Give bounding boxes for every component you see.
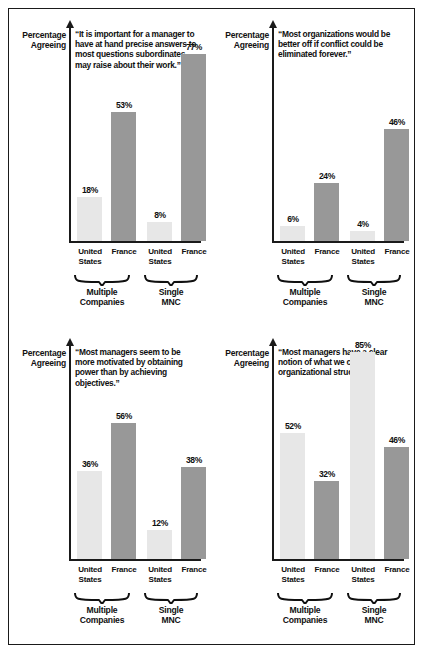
x-axis-tick-label: UnitedStates — [346, 565, 380, 585]
bar-united-states: 12% — [147, 530, 172, 559]
plot-area: “Most managers have a clear notion of wh… — [272, 345, 404, 561]
group-brace-labels: MultipleCompaniesSingleMNC — [71, 275, 201, 321]
group-single-mnc: SingleMNC — [143, 275, 199, 307]
group-label-line2: MNC — [346, 615, 402, 625]
bar-france: 53% — [111, 112, 136, 241]
tick-label-line2: States — [143, 575, 177, 585]
group-label: MultipleCompanies — [276, 287, 334, 307]
group-multiple-companies: MultipleCompanies — [276, 593, 334, 625]
tick-label-line2: States — [346, 257, 380, 267]
bar-value-label: 46% — [380, 435, 414, 445]
group-label-line2: Companies — [73, 297, 131, 307]
x-axis-category-labels: UnitedStatesFranceUnitedStatesFrance — [274, 565, 404, 591]
tick-label-line2: States — [346, 575, 380, 585]
group-label-line2: MNC — [143, 297, 199, 307]
bar-value-label: 32% — [310, 469, 344, 479]
tick-label-line1: United — [346, 247, 380, 257]
bar-series: 6%24%4%46% — [274, 27, 404, 241]
bar-value-label: 52% — [276, 421, 310, 431]
group-label: SingleMNC — [346, 605, 402, 625]
bar-france: 56% — [111, 423, 136, 559]
x-axis-line — [69, 559, 201, 561]
group-multiple-companies: MultipleCompanies — [73, 275, 131, 307]
y-axis-label-line2: Agreeing — [11, 41, 66, 51]
group-label-line1: Single — [346, 287, 402, 297]
chart-panel-bottom-right: PercentageAgreeing“Most managers have a … — [212, 329, 416, 645]
bar-value-label: 36% — [73, 459, 107, 469]
plot-area: “It is important for a manager to have a… — [69, 27, 201, 243]
tick-label-line1: France — [177, 247, 211, 257]
curly-brace-icon — [346, 275, 402, 286]
bar-value-label: 8% — [143, 210, 177, 220]
tick-label-line1: United — [276, 247, 310, 257]
x-axis-tick-label: UnitedStates — [73, 565, 107, 585]
bar-united-states: 85% — [350, 352, 375, 559]
plot-area: “Most organizations would be better off … — [272, 27, 404, 243]
curly-brace-icon — [143, 275, 199, 286]
x-axis-tick-label: UnitedStates — [73, 247, 107, 267]
bar-rect — [280, 226, 305, 241]
group-label-line1: Single — [143, 605, 199, 615]
bar-rect — [181, 467, 206, 559]
bar-rect — [384, 129, 409, 241]
bar-united-states: 36% — [77, 471, 102, 559]
y-axis-label: PercentageAgreeing — [214, 349, 269, 368]
bar-united-states: 6% — [280, 226, 305, 241]
bar-rect — [147, 222, 172, 241]
bar-value-label: 85% — [346, 340, 380, 350]
tick-label-line1: United — [276, 565, 310, 575]
bar-value-label: 77% — [177, 42, 211, 52]
tick-label-line1: United — [73, 247, 107, 257]
x-axis-tick-label: France — [177, 247, 211, 257]
group-label-line2: Companies — [276, 297, 334, 307]
x-axis-tick-label: UnitedStates — [143, 247, 177, 267]
bar-united-states: 18% — [77, 197, 102, 241]
x-axis-tick-label: France — [380, 247, 414, 257]
bar-rect — [384, 447, 409, 559]
group-label: MultipleCompanies — [276, 605, 334, 625]
y-axis-label: PercentageAgreeing — [11, 349, 66, 368]
bar-rect — [111, 112, 136, 241]
bar-value-label: 38% — [177, 455, 211, 465]
figure-frame: PercentageAgreeing“It is important for a… — [8, 8, 415, 645]
tick-label-line2: States — [143, 257, 177, 267]
x-axis-tick-label: UnitedStates — [143, 565, 177, 585]
tick-label-line2: States — [276, 257, 310, 267]
bar-rect — [314, 183, 339, 241]
bar-series: 36%56%12%38% — [71, 345, 201, 559]
group-label-line1: Multiple — [73, 287, 131, 297]
y-axis-label: PercentageAgreeing — [214, 31, 269, 50]
x-axis-category-labels: UnitedStatesFranceUnitedStatesFrance — [71, 565, 201, 591]
group-single-mnc: SingleMNC — [143, 593, 199, 625]
group-brace-labels: MultipleCompaniesSingleMNC — [71, 593, 201, 639]
curly-brace-icon — [276, 275, 334, 286]
group-label: SingleMNC — [346, 287, 402, 307]
tick-label-line2: States — [73, 257, 107, 267]
x-axis-tick-label: UnitedStates — [276, 565, 310, 585]
plot-area: “Most managers seem to be more motivated… — [69, 345, 201, 561]
group-label-line2: MNC — [143, 615, 199, 625]
tick-label-line1: France — [177, 565, 211, 575]
bar-value-label: 46% — [380, 117, 414, 127]
tick-label-line1: United — [73, 565, 107, 575]
group-brace-labels: MultipleCompaniesSingleMNC — [274, 593, 404, 639]
group-label: MultipleCompanies — [73, 287, 131, 307]
x-axis-tick-label: France — [380, 565, 414, 575]
tick-label-line2: States — [276, 575, 310, 585]
chart-panel-bottom-left: PercentageAgreeing“Most managers seem to… — [9, 329, 212, 645]
y-axis-label-line2: Agreeing — [11, 359, 66, 369]
bar-rect — [77, 197, 102, 241]
tick-label-line1: France — [310, 565, 344, 575]
tick-label-line1: United — [143, 247, 177, 257]
group-label-line2: Companies — [73, 615, 131, 625]
bar-united-states: 4% — [350, 231, 375, 241]
bar-france: 46% — [384, 129, 409, 241]
tick-label-line1: France — [107, 565, 141, 575]
bar-rect — [77, 471, 102, 559]
chart-panel-grid: PercentageAgreeing“It is important for a… — [9, 9, 414, 644]
group-label-line1: Multiple — [276, 287, 334, 297]
bar-rect — [181, 54, 206, 241]
curly-brace-icon — [73, 275, 131, 286]
group-label-line1: Multiple — [276, 605, 334, 615]
x-axis-tick-label: France — [107, 247, 141, 257]
